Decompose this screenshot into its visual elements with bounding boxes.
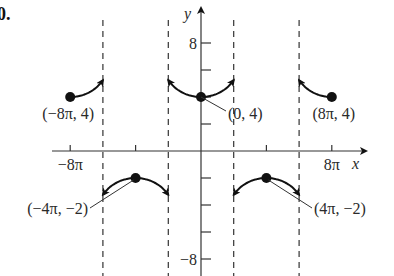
branch-right-down-right bbox=[266, 178, 299, 195]
leader-line bbox=[268, 180, 312, 208]
graph: 0. xy−8π8π8−8(−8π, 4)(0, 4)(8π, 4)(−4π, … bbox=[0, 0, 394, 276]
x-axis-label: x bbox=[351, 155, 359, 172]
branch-center-up-left bbox=[168, 80, 201, 97]
key-point bbox=[65, 92, 75, 102]
key-point-label: (4π, −2) bbox=[314, 200, 366, 218]
key-point-label: (−4π, −2) bbox=[27, 200, 88, 218]
leader-line bbox=[90, 180, 134, 208]
x-tick-label: 8π bbox=[324, 156, 340, 173]
key-point-label: (−8π, 4) bbox=[42, 105, 94, 123]
y-axis-label: y bbox=[182, 5, 192, 23]
branch-left-up-right bbox=[70, 80, 103, 97]
x-tick-label: −8π bbox=[58, 156, 83, 173]
key-point-label: (0, 4) bbox=[228, 105, 263, 123]
key-point-label: (8π, 4) bbox=[312, 105, 355, 123]
branch-left-down-left bbox=[103, 178, 136, 195]
y-tick-label: −8 bbox=[180, 251, 197, 268]
branch-center-up-right bbox=[201, 80, 234, 97]
branch-left-down-right bbox=[136, 178, 169, 195]
key-point bbox=[327, 92, 337, 102]
branch-right-down-left bbox=[234, 178, 267, 195]
branch-right-up-left bbox=[299, 80, 332, 97]
y-tick-label: 8 bbox=[189, 35, 197, 52]
problem-number: 0. bbox=[0, 4, 11, 24]
leader-line bbox=[201, 97, 226, 111]
